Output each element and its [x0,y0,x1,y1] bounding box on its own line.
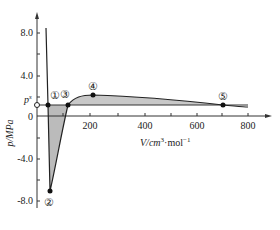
y-tick-4: 4.0 [21,70,34,81]
x-axis-label: V/cm3·mol−1 [140,136,191,148]
x-tick-600: 600 [190,120,205,131]
x-tick-800: 800 [241,120,256,131]
point-4-label: ④ [88,80,98,92]
point-4 [91,93,96,98]
y-tick-0: 0 [28,111,33,122]
point-2 [48,189,53,194]
point-3-label: ③ [60,88,70,100]
pv-isotherm-chart: 8.0 4.0 0 -4.0 -8.0 200 400 600 800 ps p… [0,0,280,230]
y-tick-m4: -4.0 [17,153,33,164]
ps-label: ps [23,93,32,105]
point-5-label: ⑤ [218,90,228,102]
x-axis-arrow [265,114,272,118]
y-axis-label: p/MPa [4,119,15,147]
x-tick-200: 200 [83,120,98,131]
point-2-label: ② [44,196,54,208]
point-5 [221,103,226,108]
y-tick-m8: -8.0 [17,195,33,206]
isotherm-curve [46,28,248,191]
point-1-label: ① [50,89,60,101]
x-tick-400: 400 [138,120,153,131]
open-point-ps [35,103,40,108]
point-1 [46,103,51,108]
y-axis-arrow [35,12,39,19]
y-tick-8: 8.0 [21,27,34,38]
point-3 [66,103,71,108]
